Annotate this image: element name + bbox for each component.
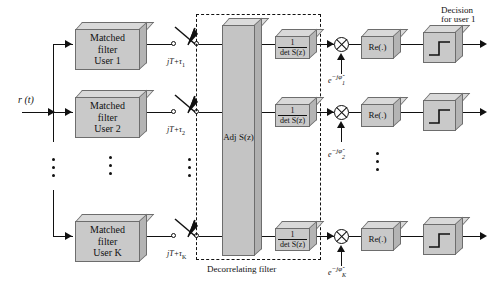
matched-filter-user2-block[interactable]: Matched filter User 2 xyxy=(75,90,147,138)
realK-label: Re(.) xyxy=(368,234,386,244)
block-diagram-figure: r (t) Matched filter User 1 Matched xyxy=(0,0,499,291)
input-bus-upper xyxy=(53,44,54,112)
matched-filter-user1-block[interactable]: Matched filter User 1 xyxy=(75,22,147,70)
multiplier-userK[interactable] xyxy=(334,229,349,244)
box-side-face xyxy=(139,90,147,138)
sampler1-label-main: jT+ xyxy=(167,57,179,66)
decision-output-label: Decision for user 1 xyxy=(441,6,476,25)
real2-face: Re(.) xyxy=(361,104,394,127)
branch2-feed-arrow xyxy=(65,108,72,116)
phase2-arrow xyxy=(337,121,345,128)
real-part-user2-block[interactable]: Re(.) xyxy=(361,97,401,127)
sampler1-label-sub: 1 xyxy=(182,62,185,68)
real1-out-wire xyxy=(401,44,424,45)
multiplier-user1[interactable] xyxy=(334,37,349,52)
adjoint-label-wrap: Adj S(z) xyxy=(222,18,255,256)
real-part-user1-block[interactable]: Re(.) xyxy=(361,29,401,59)
adjoint-label: Adj S(z) xyxy=(223,132,254,142)
input-wire xyxy=(22,112,50,113)
real1-label: Re(.) xyxy=(368,42,386,52)
phase2-wire xyxy=(341,128,342,142)
real1-face: Re(.) xyxy=(361,36,394,59)
box-side-face xyxy=(393,29,401,59)
input-signal-label: r (t) xyxy=(18,95,34,106)
phase-label-userK: e−jφ̂K xyxy=(328,266,346,279)
matched-filter-user2-face: Matched filter User 2 xyxy=(75,97,140,138)
mult1-in-arrow xyxy=(327,40,334,48)
realK-out-wire xyxy=(401,236,424,237)
det2-numerator: 1 xyxy=(278,107,307,115)
det-filter-user1-face: 1 det S(z) xyxy=(275,36,310,59)
input-bus-ellipsis xyxy=(52,158,55,177)
phaseK-arrow xyxy=(337,245,345,252)
real2-out-wire xyxy=(401,112,424,113)
sampler2-label: jT+τ2 xyxy=(167,126,185,136)
detK-numerator: 1 xyxy=(278,231,307,239)
multK-in-arrow xyxy=(327,232,334,240)
phase-column-ellipsis xyxy=(376,152,379,171)
box-side-face xyxy=(139,214,147,262)
sampler-column-ellipsis xyxy=(188,158,191,177)
mf2-line2: filter xyxy=(90,112,125,124)
box-side-face xyxy=(455,25,463,63)
branch1-feed-arrow xyxy=(65,40,72,48)
det-filter-userK-face: 1 det S(z) xyxy=(275,228,310,251)
det-filter-user2-block[interactable]: 1 det S(z) xyxy=(275,97,317,127)
threshold-user2-block[interactable] xyxy=(423,93,463,131)
step-function-icon xyxy=(427,105,453,127)
phase1-sub: 1 xyxy=(342,80,345,86)
outputK-arrow xyxy=(480,232,487,240)
multiplier-user2[interactable] xyxy=(334,105,349,120)
branchK-feed-arrow xyxy=(65,232,72,240)
matched-filter-userK-block[interactable]: Matched filter User K xyxy=(75,214,147,262)
decorrelating-filter-label: Decorrelating filter xyxy=(207,265,276,274)
matched-filter-userK-face: Matched filter User K xyxy=(75,221,140,262)
output1-arrow xyxy=(480,40,487,48)
mult2-in-arrow xyxy=(327,108,334,116)
samplerK-label-main: jT+ xyxy=(167,249,179,258)
box-side-face xyxy=(309,97,317,127)
adjoint-matrix-block[interactable]: Adj S(z) xyxy=(222,18,262,256)
box-side-face xyxy=(139,22,147,70)
phaseK-exp: −jφ̂ xyxy=(332,265,343,273)
adj-outK-wire xyxy=(262,236,276,237)
input-bus-mid xyxy=(53,112,54,142)
det1-numerator: 1 xyxy=(278,39,307,47)
detK-denominator: det S(z) xyxy=(278,239,307,249)
det1-denominator: det S(z) xyxy=(278,47,307,57)
matched-filter-column-ellipsis xyxy=(109,156,112,175)
sampler1-label: jT+τ1 xyxy=(167,58,185,68)
det-filter-user1-block[interactable]: 1 det S(z) xyxy=(275,29,317,59)
mf1-line3: User 1 xyxy=(90,55,125,67)
mf1-line1: Matched xyxy=(90,32,125,44)
det-filter-userK-block[interactable]: 1 det S(z) xyxy=(275,221,317,251)
phase1-wire xyxy=(341,60,342,74)
box-side-face xyxy=(393,97,401,127)
step-function-icon xyxy=(427,229,453,251)
threshold2-face xyxy=(423,100,456,131)
box-side-face xyxy=(393,221,401,251)
adj-out2-wire xyxy=(262,112,276,113)
sampler2-label-sub: 2 xyxy=(182,130,185,136)
mfK-line1: Matched xyxy=(90,224,125,236)
thresholdK-face xyxy=(423,224,456,255)
adj-out1-wire xyxy=(262,44,276,45)
phase2-exp: −jφ̂ xyxy=(332,147,343,155)
real2-label: Re(.) xyxy=(368,110,386,120)
phase2-sub: 2 xyxy=(342,154,345,160)
threshold-user1-block[interactable] xyxy=(423,25,463,63)
mfK-line3: User K xyxy=(90,247,125,259)
box-side-face xyxy=(309,221,317,251)
threshold-userK-block[interactable] xyxy=(423,217,463,255)
box-side-face xyxy=(455,217,463,255)
output2-arrow xyxy=(480,108,487,116)
mf1-line2: filter xyxy=(90,44,125,56)
input-bus-lower xyxy=(53,190,54,236)
det-filter-user2-face: 1 det S(z) xyxy=(275,104,310,127)
phase-label-user2: e−jφ̂2 xyxy=(328,148,345,161)
real-part-userK-block[interactable]: Re(.) xyxy=(361,221,401,251)
matched-filter-user1-face: Matched filter User 1 xyxy=(75,29,140,70)
mf2-line3: User 2 xyxy=(90,123,125,135)
realK-face: Re(.) xyxy=(361,228,394,251)
samplerK-label-sub: K xyxy=(182,254,186,260)
